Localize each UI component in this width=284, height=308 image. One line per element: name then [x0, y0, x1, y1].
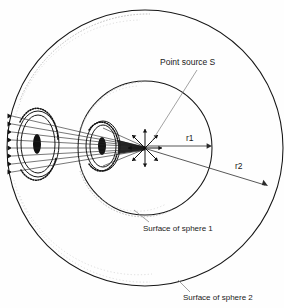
- point-source-label: Point source S: [160, 57, 216, 67]
- lens-near-rim-hatching-lower: [89, 154, 117, 171]
- optics-diagram: r1 r2 Point source S Surface of sphere 1…: [0, 0, 284, 308]
- sphere-2-label: Surface of sphere 2: [183, 293, 253, 302]
- r2-arrowhead: [262, 180, 268, 186]
- point-source-dot: [143, 146, 146, 149]
- r1-arrowhead: [207, 143, 212, 149]
- sphere-1-annotation: Surface of sphere 1: [134, 210, 213, 233]
- point-source-leader: [152, 70, 197, 141]
- sphere-1-lower-shading-2: [86, 182, 166, 211]
- sphere-2-inner-shading: [20, 14, 150, 100]
- r1-label: r1: [186, 133, 194, 143]
- r2-dimension: r2: [147, 149, 268, 186]
- point-source-star: [128, 129, 162, 167]
- r2-arrow-line: [147, 149, 265, 185]
- sphere-2-lower-shading-2: [20, 196, 152, 275]
- r2-label: r2: [235, 161, 243, 171]
- lens-far-group: [17, 108, 59, 180]
- incoming-ray-bundle: [8, 113, 146, 174]
- sphere-2-leader: [178, 280, 190, 292]
- lens-near-group: [86, 121, 120, 171]
- sphere-1-label: Surface of sphere 1: [143, 224, 213, 233]
- point-source-annotation: Point source S: [152, 57, 216, 141]
- sphere-1-inner-shading: [82, 82, 142, 126]
- sphere-2-annotation: Surface of sphere 2: [178, 280, 253, 302]
- lens-far-pupil: [33, 134, 41, 154]
- sphere-1-lower-shading: [80, 171, 172, 217]
- sphere-1-inner-shading-2: [79, 86, 138, 137]
- figure-root: r1 r2 Point source S Surface of sphere 1…: [0, 0, 284, 308]
- sphere-2-inner-shading-2: [15, 20, 140, 118]
- sphere-1-leader: [134, 210, 149, 222]
